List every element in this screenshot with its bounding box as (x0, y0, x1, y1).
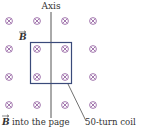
coil-label: 50-turn coil (85, 117, 136, 127)
field-into-page-icon (6, 74, 13, 81)
field-into-page-icon (90, 18, 97, 25)
field-into-page-icon (6, 102, 13, 109)
field-into-page-icon (62, 102, 69, 109)
field-into-page-icon (90, 46, 97, 53)
svg-text:B: B (1, 117, 10, 127)
field-into-page-icon (6, 18, 13, 25)
field-into-page-icon (90, 74, 97, 81)
coil-magnetic-field-diagram: Axis B B into the page 50-turn coil (0, 0, 147, 137)
field-into-page-icon (62, 18, 69, 25)
field-into-page-icon (34, 18, 41, 25)
field-into-page-icon (62, 46, 69, 53)
field-into-page-icon (34, 46, 41, 53)
field-vector-label: B (18, 31, 27, 42)
coil-leader-line (68, 84, 86, 121)
field-into-page-icon (34, 102, 41, 109)
field-into-page-icon (62, 74, 69, 81)
field-into-page-icon (6, 46, 13, 53)
svg-text:B: B (18, 32, 27, 42)
field-into-page-icon (34, 74, 41, 81)
field-into-page-icon (90, 102, 97, 109)
field-direction-caption: B into the page (1, 115, 70, 127)
axis-label: Axis (40, 1, 60, 11)
svg-text:into the page: into the page (12, 117, 70, 127)
